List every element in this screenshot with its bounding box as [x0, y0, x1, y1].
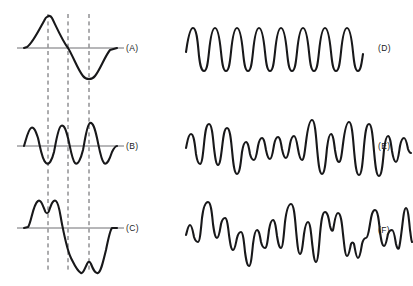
panel-c-waveform — [24, 201, 117, 274]
panel-a-waveform — [24, 16, 117, 79]
panel-d — [170, 0, 413, 96]
panel-b-label: (B) — [126, 142, 139, 151]
panel-f — [170, 180, 413, 284]
panel-e-label: (E) — [378, 142, 391, 151]
panel-c-label: (C) — [126, 224, 139, 233]
panel-a-label: (A) — [126, 44, 139, 53]
panel-f-label: (F) — [378, 226, 390, 235]
panel-d-waveform — [186, 28, 363, 71]
waveform-figure: (A) (B) (C) (D) (E) (F) — [0, 0, 413, 286]
panel-d-label: (D) — [378, 44, 391, 53]
panel-b-waveform — [24, 123, 117, 164]
